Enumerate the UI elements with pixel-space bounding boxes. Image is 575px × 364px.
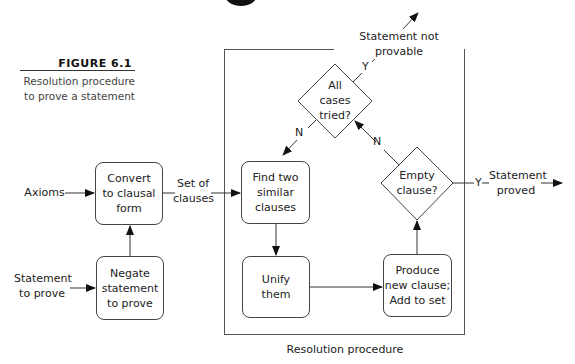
node-unify-them: Unify them [242, 256, 310, 318]
node-convert-line-1: Convert [103, 171, 156, 186]
node-find-two-similar-clauses: Find two similar clauses [241, 161, 310, 224]
node-negate-statement: Negate statement to prove [96, 256, 164, 320]
node-find-line-1: Find two [252, 170, 298, 185]
node-negate-line-1: Negate [102, 266, 159, 281]
edge-label-set-of-clauses: Set of clauses [173, 176, 213, 206]
node-negate-line-3: to prove [102, 296, 159, 311]
node-produce-line-3: Add to set [385, 293, 450, 308]
decision-empty-clause: Empty clause? [387, 168, 447, 198]
decision-empty-line-1: Empty [387, 168, 447, 183]
edge-label-yes-proved: Y [475, 176, 482, 189]
outcome-not-provable: Statement not provable [334, 29, 464, 59]
input-statement-line-1: Statement [14, 271, 70, 286]
edge-label-set-of-line-2: clauses [173, 191, 213, 206]
edge-label-yes-not-provable: Y [362, 60, 369, 73]
node-produce-line-1: Produce [385, 263, 450, 278]
edge-label-no-retry: N [373, 135, 381, 148]
input-statement-line-2: to prove [14, 286, 70, 301]
edge-label-set-of-line-1: Set of [173, 176, 213, 191]
node-produce-new-clause: Produce new clause; Add to set [383, 254, 452, 317]
node-unify-line-2: them [262, 287, 291, 302]
decision-empty-line-2: clause? [387, 183, 447, 198]
decision-all-cases-tried: All cases tried? [305, 78, 365, 123]
node-convert-line-2: to clausal [103, 186, 156, 201]
node-find-line-3: clauses [252, 200, 298, 215]
group-title-resolution-procedure: Resolution procedure [280, 342, 410, 357]
node-produce-line-2: new clause; [385, 278, 450, 293]
outcome-proved-line-2: proved [489, 183, 543, 198]
input-axioms-label: Axioms [22, 185, 67, 200]
edge-label-no-find: N [295, 126, 303, 139]
outcome-proved-line-1: Statement [489, 168, 543, 183]
node-convert-to-clausal-form: Convert to clausal form [95, 162, 163, 225]
decision-all-cases-line-2: cases [305, 93, 365, 108]
input-statement-label: Statement to prove [14, 271, 70, 301]
outcome-proved: Statement proved [489, 168, 543, 198]
node-negate-line-2: statement [102, 281, 159, 296]
decision-all-cases-line-1: All [305, 78, 365, 93]
node-convert-line-3: form [103, 201, 156, 216]
decision-all-cases-line-3: tried? [305, 108, 365, 123]
node-find-line-2: similar [252, 185, 298, 200]
node-unify-line-1: Unify [262, 272, 291, 287]
